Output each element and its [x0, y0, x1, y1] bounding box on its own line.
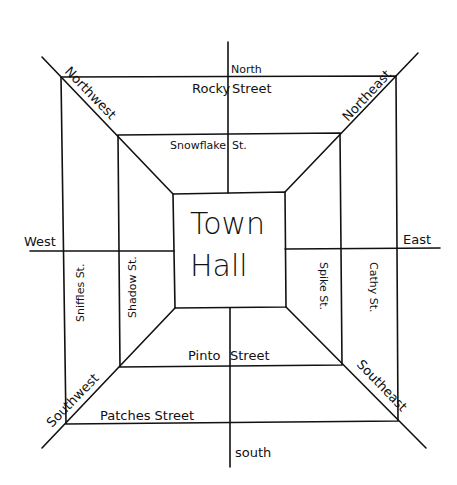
- east-west-road-east: [285, 248, 440, 249]
- label-shadow: Shadow St.: [126, 256, 139, 318]
- label-rocky-suffix: Street: [232, 81, 272, 96]
- southwest-road: [42, 308, 175, 448]
- label-snowflake-suffix: St.: [232, 139, 247, 152]
- label-patches-street: Patches Street: [100, 408, 194, 423]
- label-spike: Spike St.: [317, 262, 330, 310]
- label-south: south: [235, 445, 271, 460]
- label-east: East: [403, 232, 431, 247]
- label-cathy: Cathy St.: [367, 262, 380, 313]
- label-north: North: [231, 63, 262, 76]
- label-west: West: [24, 234, 56, 249]
- label-southeast: Southeast: [354, 357, 410, 415]
- label-rocky: Rocky: [192, 81, 231, 96]
- label-sniffles: Sniffles St.: [74, 264, 87, 322]
- label-southwest: Southwest: [43, 371, 101, 431]
- label-snowflake: Snowflake: [170, 139, 226, 152]
- southeast-road: [286, 307, 426, 448]
- town-map: Town Hall North south West East Northwes…: [0, 0, 457, 485]
- town-hall-label-line2: Hall: [190, 248, 248, 283]
- town-hall-label-line1: Town: [190, 206, 265, 241]
- label-northwest: Northwest: [62, 64, 119, 123]
- label-pinto-suffix: Street: [230, 348, 270, 363]
- label-pinto: Pinto: [188, 348, 221, 363]
